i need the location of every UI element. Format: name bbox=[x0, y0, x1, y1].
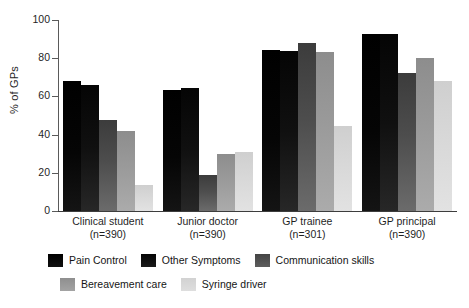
bar bbox=[181, 88, 199, 211]
legend-label: Communication skills bbox=[276, 254, 375, 266]
y-tick-label: 80 bbox=[16, 52, 50, 64]
bar bbox=[135, 185, 153, 211]
bar-group bbox=[63, 20, 153, 211]
y-tick-label: 20 bbox=[16, 167, 50, 179]
bar bbox=[99, 120, 117, 211]
x-axis-group-name: Junior doctor bbox=[177, 215, 238, 227]
bar bbox=[316, 52, 334, 211]
x-axis-group-name: GP trainee bbox=[282, 215, 332, 227]
y-tick-label-text: 80 bbox=[20, 52, 50, 63]
legend-item[interactable]: Other Symptoms bbox=[141, 254, 241, 267]
legend-label: Other Symptoms bbox=[162, 254, 241, 266]
bar bbox=[81, 85, 99, 211]
bar bbox=[380, 34, 398, 211]
bar-chart: % of GPs 020406080100 Clinical student(n… bbox=[0, 0, 469, 308]
legend-label: Pain Control bbox=[69, 254, 127, 266]
bar bbox=[235, 152, 253, 211]
y-tick-label-text: 100 bbox=[20, 14, 50, 25]
legend-swatch-icon bbox=[181, 278, 196, 291]
legend-item[interactable]: Pain Control bbox=[48, 254, 127, 267]
bar-group bbox=[362, 20, 452, 211]
bar bbox=[416, 58, 434, 211]
y-tick-mark bbox=[52, 211, 58, 212]
x-axis-group-name: Clinical student bbox=[72, 215, 143, 227]
bar-group bbox=[262, 20, 352, 211]
bar bbox=[434, 81, 452, 211]
y-tick-label: 100 bbox=[16, 14, 50, 26]
x-axis-line bbox=[58, 211, 457, 212]
x-axis-group-label: GP principal(n=390) bbox=[337, 215, 469, 241]
y-tick-label-text: 60 bbox=[20, 90, 50, 101]
bar bbox=[262, 50, 280, 211]
bar bbox=[217, 154, 235, 211]
chart-legend: Pain ControlOther SymptomsCommunication … bbox=[48, 250, 448, 294]
bar bbox=[362, 34, 380, 211]
legend-item[interactable]: Communication skills bbox=[255, 254, 375, 267]
y-tick-label: 40 bbox=[16, 129, 50, 141]
y-tick-label-text: 20 bbox=[20, 167, 50, 178]
legend-item[interactable]: Syringe driver bbox=[181, 278, 267, 291]
bar-group bbox=[163, 20, 253, 211]
bar bbox=[117, 131, 135, 211]
y-tick-label-text: 0 bbox=[20, 205, 50, 216]
bar bbox=[334, 126, 352, 211]
bar bbox=[163, 90, 181, 211]
x-axis-group-name: GP principal bbox=[379, 215, 436, 227]
plot-area bbox=[58, 20, 457, 211]
legend-row-primary: Pain ControlOther SymptomsCommunication … bbox=[48, 250, 448, 270]
bar bbox=[199, 175, 217, 211]
bar bbox=[398, 73, 416, 211]
legend-row-secondary: Bereavement careSyringe driver bbox=[48, 274, 448, 294]
legend-item[interactable]: Bereavement care bbox=[60, 278, 167, 291]
legend-label: Bereavement care bbox=[81, 278, 167, 290]
x-axis-group-count: (n=390) bbox=[337, 228, 469, 241]
legend-swatch-icon bbox=[48, 254, 63, 267]
bar bbox=[63, 81, 81, 211]
bar bbox=[280, 51, 298, 211]
legend-label: Syringe driver bbox=[202, 278, 267, 290]
legend-swatch-icon bbox=[255, 254, 270, 267]
y-tick-label-text: 40 bbox=[20, 129, 50, 140]
legend-swatch-icon bbox=[60, 278, 75, 291]
legend-swatch-icon bbox=[141, 254, 156, 267]
bar bbox=[298, 43, 316, 211]
y-tick-label: 60 bbox=[16, 90, 50, 102]
